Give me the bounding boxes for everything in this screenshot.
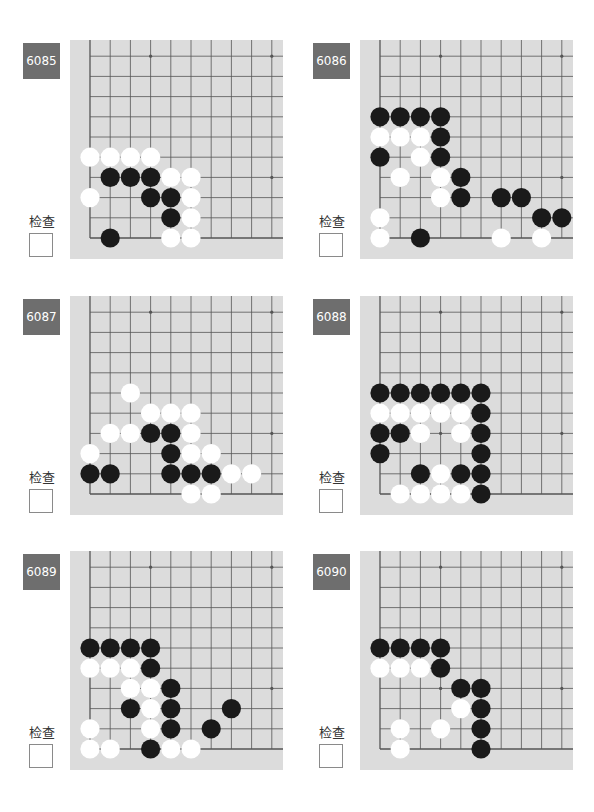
black-stone [161,444,180,463]
black-stone [370,424,389,443]
white-stone [411,659,430,678]
black-stone [391,638,410,657]
faint-bleed-through [30,2,550,14]
black-stone [141,424,160,443]
board-grid [70,551,283,770]
black-stone [471,739,490,758]
go-board[interactable] [360,296,573,515]
board-grid [70,40,283,259]
black-stone [141,188,160,207]
check-label: 检查 [313,211,350,230]
white-stone [370,404,389,423]
star-point [560,55,563,58]
board-grid [360,40,573,259]
puzzle-number-label: 6088 [313,299,350,335]
black-stone [141,638,160,657]
white-stone [411,424,430,443]
star-point [439,566,442,569]
check-box[interactable] [319,233,343,257]
check-box[interactable] [319,489,343,513]
white-stone [431,188,450,207]
white-stone [141,719,160,738]
white-stone [181,228,200,247]
star-point [439,311,442,314]
star-point [270,687,273,690]
check-label: 检查 [313,467,350,486]
white-stone [141,404,160,423]
black-stone [411,228,430,247]
white-stone [532,228,551,247]
black-stone [411,107,430,126]
go-board[interactable] [70,40,283,259]
black-stone [471,699,490,718]
black-stone [101,464,120,483]
board-grid [70,296,283,515]
black-stone [471,484,490,503]
black-stone [552,208,571,227]
black-stone [471,464,490,483]
white-stone [202,484,221,503]
check-label: 检查 [313,722,350,741]
check-box[interactable] [29,744,53,768]
black-stone [370,107,389,126]
black-stone [101,228,120,247]
go-board[interactable] [70,551,283,770]
black-stone [161,464,180,483]
black-stone [471,719,490,738]
white-stone [391,404,410,423]
check-label: 检查 [23,467,60,486]
check-box[interactable] [29,489,53,513]
black-stone [471,444,490,463]
white-stone [101,659,120,678]
go-board[interactable] [360,40,573,259]
white-stone [121,659,140,678]
white-stone [391,127,410,146]
white-stone [181,208,200,227]
white-stone [411,484,430,503]
white-stone [451,424,470,443]
black-stone [411,638,430,657]
black-stone [431,659,450,678]
black-stone [431,107,450,126]
black-stone [161,424,180,443]
white-stone [411,404,430,423]
white-stone [141,699,160,718]
white-stone [202,444,221,463]
white-stone [370,208,389,227]
white-stone [431,168,450,187]
black-stone [451,168,470,187]
white-stone [181,168,200,187]
white-stone [181,444,200,463]
go-board[interactable] [70,296,283,515]
black-stone [431,127,450,146]
white-stone [411,148,430,167]
puzzle-number-label: 6085 [23,43,60,79]
white-stone [370,228,389,247]
black-stone [391,107,410,126]
black-stone [161,699,180,718]
black-stone [202,719,221,738]
white-stone [181,404,200,423]
white-stone [161,228,180,247]
star-point [439,55,442,58]
puzzle-6085: 6085 检查 [23,40,313,265]
go-board[interactable] [360,551,573,770]
star-point [270,55,273,58]
white-stone [181,484,200,503]
white-stone [80,739,99,758]
check-box[interactable] [29,233,53,257]
white-stone [451,484,470,503]
white-stone [121,424,140,443]
star-point [270,176,273,179]
star-point [149,566,152,569]
white-stone [121,383,140,402]
black-stone [80,638,99,657]
black-stone [141,168,160,187]
black-stone [121,168,140,187]
black-stone [451,188,470,207]
check-box[interactable] [319,744,343,768]
black-stone [391,383,410,402]
star-point [270,311,273,314]
black-stone [471,404,490,423]
board-grid [360,296,573,515]
